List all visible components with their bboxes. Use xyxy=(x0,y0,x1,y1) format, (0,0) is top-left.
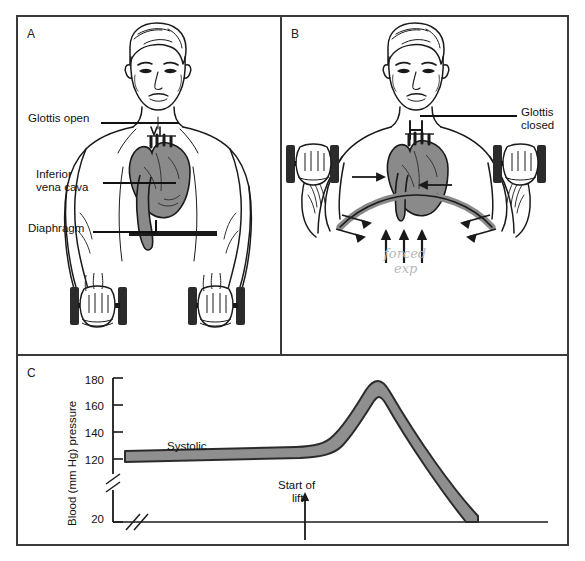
chart-series-label: Systolic xyxy=(167,440,207,453)
panel-b-illustration xyxy=(284,17,568,354)
panel-divider-horizontal xyxy=(16,354,569,356)
label-glottis-closed: Glottis closed xyxy=(521,106,554,132)
event-label-line1: Start of xyxy=(278,479,315,492)
label-diaphragm: Diaphragm xyxy=(28,222,84,235)
heart-organ xyxy=(387,133,448,221)
leader-glottis-open xyxy=(101,122,179,124)
handwritten-forced-exp-line2: exp xyxy=(394,262,417,276)
event-label-line2: lift xyxy=(292,492,304,505)
leader-glottis-closed xyxy=(420,115,517,117)
leader-diaphragm-h xyxy=(93,231,156,233)
leader-diaphragm-v xyxy=(155,220,157,232)
dumbbell-right xyxy=(188,273,245,327)
label-inferior-vena-cava: Inferior vena cava xyxy=(36,168,88,194)
handwritten-forced-exp-line1: forced xyxy=(384,247,426,261)
panel-divider-vertical xyxy=(280,15,282,356)
dumbbell-left xyxy=(70,273,127,327)
y-axis-break xyxy=(106,474,120,492)
panel-letter-c: C xyxy=(27,366,36,380)
leader-inferior-vena-cava xyxy=(103,182,176,184)
dumbbell-right xyxy=(493,144,546,185)
label-glottis-open: Glottis open xyxy=(28,112,89,125)
chart-plot-area xyxy=(100,370,560,540)
dumbbell-left xyxy=(286,144,339,185)
y-ticks xyxy=(113,378,123,522)
figure-root: A xyxy=(0,0,585,561)
